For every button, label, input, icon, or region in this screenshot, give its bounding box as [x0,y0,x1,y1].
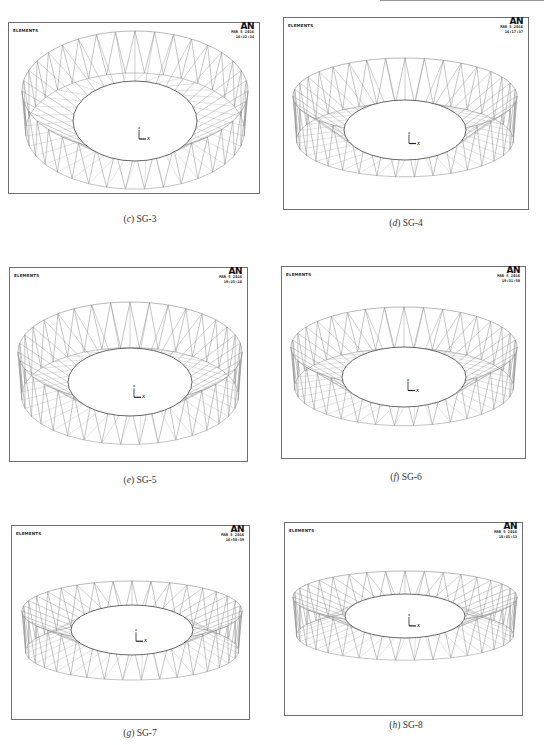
figure-caption-f: (f) SG-6 [346,472,466,482]
figure-caption-e: (e) SG-5 [80,475,200,485]
stadium-mesh-drawing: zx [12,526,251,721]
stadium-mesh-drawing: zx [10,268,249,463]
figure-caption-c: (c) SG-3 [80,214,200,224]
figure-caption-d: (d) SG-4 [346,218,466,228]
stadium-mesh-drawing: zx [282,267,527,460]
figure-panel-h: ELEMENTS AN MAR 5 201616:45:13 zx [284,522,523,716]
figure-caption-h: (h) SG-8 [346,720,466,730]
figure-panel-d: ELEMENTS AN MAR 5 201616:17:37 zx [283,17,529,210]
figure-panel-c: ELEMENTS AN MAR 5 201616:22:34 zx [8,22,260,194]
stadium-mesh-drawing: zx [285,523,524,717]
figure-panel-f: ELEMENTS AN MAR 5 201619:31:58 zx [281,266,526,459]
figure-panel-e: ELEMENTS AN MAR 5 201619:25:16 zx [9,267,248,462]
figure-panel-g: ELEMENTS AN MAR 5 201616:50:39 zx [11,525,250,720]
page-top-rule [380,0,544,1]
figure-caption-g: (g) SG-7 [80,728,200,738]
stadium-mesh-drawing: zx [284,18,530,211]
stadium-mesh-drawing: zx [9,23,261,195]
